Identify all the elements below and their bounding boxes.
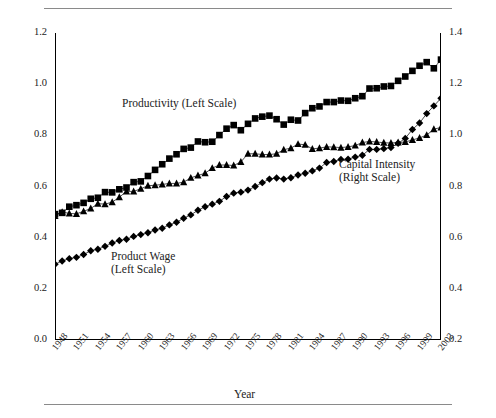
right-axis-tick-label: 0.4	[449, 282, 479, 293]
series-label-line: (Left Scale)	[111, 263, 175, 276]
left-axis-tick-label: 1.0	[17, 77, 47, 88]
x-axis-title: Year	[234, 388, 255, 400]
x-axis-tick-label: 1948	[50, 331, 70, 352]
right-axis-tick-label: 1.2	[449, 77, 479, 88]
series-label-line: (Right Scale)	[339, 171, 415, 184]
figure: 0.00.20.40.60.81.01.2 0.20.40.60.81.01.2…	[0, 0, 496, 418]
plot-area	[55, 33, 441, 340]
figure-bottom-rule	[44, 404, 452, 405]
right-axis-tick-label: 1.0	[449, 128, 479, 139]
series-label-line: Productivity (Left Scale)	[122, 97, 236, 110]
chart-canvas	[55, 33, 441, 340]
figure-top-rule	[44, 8, 452, 9]
left-axis-tick-label: 1.2	[17, 26, 47, 37]
left-axis-tick-label: 0.6	[17, 180, 47, 191]
left-axis-tick-label: 0.2	[17, 282, 47, 293]
series-label-productivity: Productivity (Left Scale)	[122, 97, 236, 110]
left-axis-tick-label: 0.8	[17, 128, 47, 139]
left-axis-tick-label: 0.4	[17, 231, 47, 242]
right-axis-tick-label: 0.8	[449, 180, 479, 191]
left-axis-tick-label: 0.0	[17, 333, 47, 344]
right-axis-tick-label: 1.4	[449, 26, 479, 37]
series-label-product-wage: Product Wage(Left Scale)	[111, 250, 175, 276]
series-label-line: Product Wage	[111, 250, 175, 263]
series-label-line: Capital Intensity	[339, 158, 415, 171]
right-axis-tick-label: 0.6	[449, 231, 479, 242]
series-label-capital-intensity: Capital Intensity(Right Scale)	[339, 158, 415, 184]
